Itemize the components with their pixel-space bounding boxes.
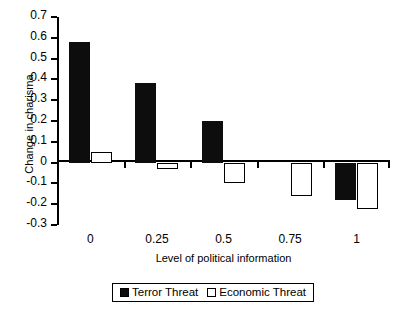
x-axis-title: Level of political information: [57, 252, 390, 264]
y-tick-label: 0.5: [13, 50, 47, 64]
y-tick: -0.2: [51, 203, 57, 205]
bar-terror-threat: [335, 163, 356, 200]
bar-terror-threat: [202, 121, 223, 163]
y-tick-label: -0.2: [13, 195, 47, 209]
bar-economic-threat: [357, 163, 378, 210]
y-tick-label: -0.1: [13, 174, 47, 188]
x-tick: [257, 162, 259, 168]
legend-swatch-filled-square-icon: [120, 288, 129, 297]
y-tick: 0.3: [51, 99, 57, 101]
y-tick-label: 0.3: [13, 91, 47, 105]
y-tick-label: 0.1: [13, 133, 47, 147]
legend-item-economic-threat: Economic Threat: [207, 286, 306, 298]
y-tick: 0.7: [51, 16, 57, 18]
x-tick: [57, 162, 59, 168]
bar-economic-threat: [224, 163, 245, 184]
bar-terror-threat: [69, 42, 90, 163]
y-tick-label: 0.2: [13, 112, 47, 126]
x-tick-label: 0.75: [270, 232, 310, 246]
x-tick-label: 0.5: [204, 232, 244, 246]
x-tick: [124, 162, 126, 168]
y-tick-label: 0.4: [13, 70, 47, 84]
y-tick: -0.1: [51, 182, 57, 184]
y-axis-line: [57, 17, 59, 225]
legend-swatch-open-square-icon: [207, 288, 216, 297]
plot-area: 0.70.60.50.40.30.20.10-0.1-0.2-0.3 00.25…: [57, 17, 390, 225]
bar-chart: Change in charisma 0.70.60.50.40.30.20.1…: [0, 0, 400, 319]
y-tick-label: 0: [13, 154, 47, 168]
y-tick: 0.5: [51, 58, 57, 60]
y-tick-label: -0.3: [13, 216, 47, 230]
x-tick: [388, 162, 390, 168]
x-tick-label: 0: [70, 232, 110, 246]
chart-legend: Terror Threat Economic Threat: [112, 283, 314, 302]
x-tick: [190, 162, 192, 168]
x-tick: [323, 162, 325, 168]
legend-label-economic-threat: Economic Threat: [219, 286, 306, 298]
y-tick: 0.4: [51, 78, 57, 80]
y-tick: 0.6: [51, 37, 57, 39]
bar-economic-threat: [291, 163, 312, 196]
legend-label-terror-threat: Terror Threat: [132, 286, 198, 298]
y-tick-label: 0.7: [13, 8, 47, 22]
bar-terror-threat: [135, 83, 156, 163]
bar-economic-threat: [157, 163, 178, 169]
y-tick: 0.1: [51, 141, 57, 143]
y-tick: 0.2: [51, 120, 57, 122]
legend-item-terror-threat: Terror Threat: [120, 286, 198, 298]
x-tick-label: 0.25: [137, 232, 177, 246]
bar-economic-threat: [91, 152, 112, 162]
y-tick: -0.3: [51, 224, 57, 226]
y-tick-label: 0.6: [13, 29, 47, 43]
x-tick-label: 1: [337, 232, 377, 246]
